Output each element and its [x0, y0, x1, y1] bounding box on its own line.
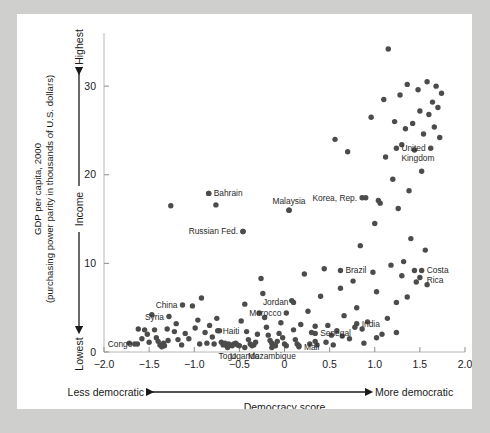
data-point: [244, 329, 249, 334]
data-point: [323, 340, 328, 345]
data-point: [381, 97, 386, 102]
data-point: [207, 323, 212, 328]
data-point: [338, 286, 343, 291]
country-label: Mozambique: [248, 351, 296, 361]
data-point: [312, 324, 317, 329]
data-point: [206, 191, 211, 196]
data-point: [417, 275, 422, 280]
data-point: [214, 316, 219, 321]
data-point: [302, 271, 307, 276]
data-point: [415, 87, 420, 92]
data-point: [162, 343, 167, 348]
data-point: [215, 328, 220, 333]
data-point: [417, 108, 422, 113]
data-point: [430, 99, 435, 104]
data-point: [383, 154, 388, 159]
data-point: [298, 322, 303, 327]
data-point: [358, 243, 363, 248]
data-point: [403, 126, 408, 131]
data-point: [388, 262, 393, 267]
country-label: Costa: [427, 265, 449, 275]
data-point: [240, 229, 245, 234]
y-axis-highest-label: Highest: [73, 29, 85, 65]
data-point: [213, 202, 218, 207]
data-point: [165, 338, 170, 343]
data-point: [428, 145, 433, 150]
data-point: [291, 300, 296, 305]
scatter-plot: 0102030 −2.0−1.5−1.0−0.500.51.01.52.0 Co…: [17, 14, 472, 409]
data-point: [390, 177, 395, 182]
country-label: Rica: [427, 275, 444, 285]
data-point: [394, 300, 399, 305]
data-point: [408, 236, 413, 241]
data-point: [386, 46, 391, 51]
data-point: [331, 342, 336, 347]
data-point: [199, 295, 204, 300]
data-point: [372, 221, 377, 226]
data-point: [401, 259, 406, 264]
data-point: [211, 341, 216, 346]
x-tick-label: −2.0: [94, 358, 115, 370]
data-labels-group: CongoSyriaChinaBahrainHaitiTogoUgandaRus…: [108, 143, 449, 360]
country-label: Mali: [304, 342, 319, 352]
data-point: [253, 340, 258, 345]
data-point: [396, 206, 401, 211]
country-label: Bahrain: [214, 188, 243, 198]
data-point: [377, 200, 382, 205]
data-point: [379, 332, 384, 337]
data-point: [341, 313, 346, 318]
data-point: [332, 137, 337, 142]
data-point: [392, 119, 397, 124]
y-axis-ticks: 0102030: [84, 80, 109, 358]
country-label: Malaysia: [272, 196, 305, 206]
data-point: [305, 309, 310, 314]
data-point: [145, 332, 150, 337]
data-point: [370, 270, 375, 275]
data-point: [291, 327, 296, 332]
data-point: [237, 343, 242, 348]
data-point: [318, 293, 323, 298]
data-point: [432, 124, 437, 129]
figure-root: 0102030 −2.0−1.5−1.0−0.500.51.01.52.0 Co…: [0, 0, 490, 433]
x-axis-title: Democracy score: [244, 401, 326, 409]
data-point: [359, 195, 364, 200]
y-tick-label: 10: [84, 257, 96, 269]
x-tick-label: −1.0: [184, 358, 205, 370]
figure-page: 0102030 −2.0−1.5−1.0−0.500.51.01.52.0 Co…: [17, 14, 472, 409]
country-label: Brazil: [345, 265, 366, 275]
data-point: [183, 331, 188, 336]
data-point: [345, 149, 350, 154]
data-point: [276, 331, 281, 336]
data-point: [406, 188, 411, 193]
y-tick-label: 30: [84, 80, 96, 92]
country-label: Syria: [145, 312, 164, 322]
data-point: [354, 321, 359, 326]
x-tick-label: 1.5: [413, 358, 428, 370]
data-point: [190, 303, 195, 308]
data-point: [210, 334, 215, 339]
data-point: [174, 321, 179, 326]
data-point: [421, 131, 426, 136]
data-point: [338, 268, 343, 273]
data-point: [168, 203, 173, 208]
country-label: Russian Fed.: [189, 226, 238, 236]
data-point: [419, 169, 424, 174]
data-point: [325, 323, 330, 328]
country-label: United: [401, 143, 426, 153]
data-point: [374, 289, 379, 294]
data-point: [164, 326, 169, 331]
data-point: [405, 294, 410, 299]
data-point: [242, 345, 247, 350]
country-label: India: [362, 319, 381, 329]
data-point: [368, 114, 373, 119]
data-point: [424, 79, 429, 84]
data-point: [286, 208, 291, 213]
data-point: [166, 314, 171, 319]
data-point: [284, 343, 289, 348]
data-point: [146, 340, 151, 345]
data-point: [426, 112, 431, 117]
data-point: [266, 332, 271, 337]
data-point: [419, 268, 424, 273]
data-point: [195, 317, 200, 322]
data-point: [397, 92, 402, 97]
